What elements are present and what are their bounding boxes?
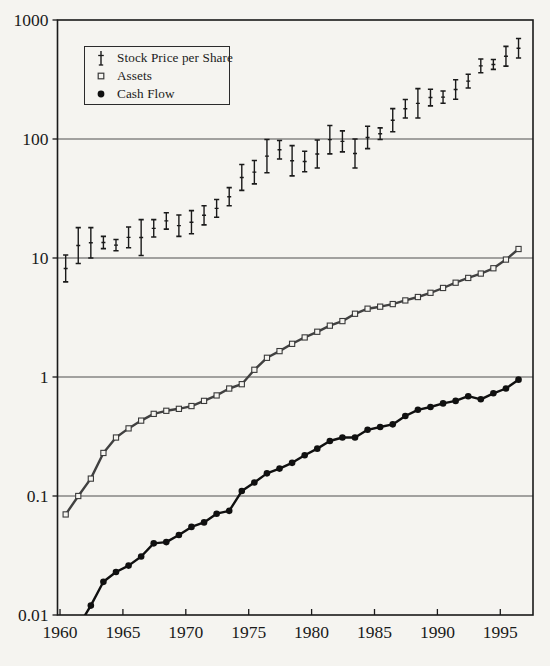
error-bar-icon [85,49,117,67]
data-point-1960 [63,512,68,517]
data-point-1972 [213,510,220,517]
data-point-1983 [352,311,357,316]
data-point-1967 [151,411,156,416]
data-point-1966 [139,418,144,423]
data-point-1986 [390,301,395,306]
y-axis-label-100: 100 [22,129,49,149]
legend-item-assets: Assets [85,67,229,85]
data-point-1980 [315,329,320,334]
data-point-1970 [188,524,195,531]
data-point-1982 [339,434,346,441]
data-point-1993 [477,396,484,403]
data-point-1992 [466,275,471,280]
data-point-1990 [440,285,445,290]
data-point-1976 [264,355,269,360]
legend: Stock Price per Share Assets Cash Flow [84,46,230,105]
data-point-1974 [239,382,244,387]
data-point-1968 [163,539,170,546]
data-point-1981 [327,323,332,328]
y-axis-label-1000: 1000 [14,10,49,30]
data-point-1993 [478,271,483,276]
data-point-1985 [378,304,383,309]
legend-label-cash-flow: Cash Flow [117,85,175,103]
data-point-1965 [126,426,131,431]
data-point-1996 [516,246,521,251]
data-point-1983 [352,434,359,441]
data-point-1989 [428,290,433,295]
x-axis-label-1995: 1995 [483,622,518,642]
data-point-1965 [125,562,132,569]
data-point-1974 [238,488,245,495]
y-axis-label-1: 1 [40,367,49,387]
data-point-1994 [491,266,496,271]
data-point-1969 [176,406,181,411]
data-point-1979 [301,452,308,459]
data-point-1976 [264,470,271,477]
data-point-1982 [340,318,345,323]
data-point-1989 [427,404,434,411]
data-point-1995 [503,385,510,392]
y-axis-label-0.1: 0.1 [27,486,49,506]
data-point-1967 [150,540,157,547]
x-axis-label-1965: 1965 [105,622,140,642]
data-point-1978 [289,460,296,467]
x-axis-label-1980: 1980 [294,622,329,642]
data-point-1961 [76,493,81,498]
data-point-1979 [302,335,307,340]
data-point-1972 [214,393,219,398]
x-axis-label-1970: 1970 [168,622,203,642]
data-point-1962 [88,602,95,609]
data-point-1987 [403,298,408,303]
data-point-1995 [503,257,508,262]
data-point-1994 [490,390,497,397]
data-point-1984 [364,427,371,434]
data-point-1988 [415,407,422,414]
data-point-1990 [440,400,447,407]
data-point-1984 [365,306,370,311]
data-point-1962 [88,476,93,481]
data-point-1966 [138,553,145,560]
x-axis-label-1990: 1990 [420,622,455,642]
data-point-1973 [227,386,232,391]
legend-label-stock-price: Stock Price per Share [117,49,233,67]
data-point-1986 [389,421,396,428]
chart-canvas: 0.010.1110100100019601965197019751980198… [0,0,550,666]
filled-circle-icon [85,85,117,103]
data-point-1963 [101,450,106,455]
data-point-1988 [415,294,420,299]
data-point-1978 [290,341,295,346]
x-axis-label-1960: 1960 [43,622,78,642]
data-point-1968 [164,408,169,413]
legend-item-stock-price: Stock Price per Share [85,49,229,67]
data-point-1971 [201,519,208,526]
data-point-1975 [251,479,258,486]
data-point-1977 [276,465,283,472]
open-square-icon [85,67,117,85]
data-point-1969 [176,532,183,539]
data-point-1977 [277,349,282,354]
data-point-1975 [252,367,257,372]
x-axis-label-1975: 1975 [231,622,266,642]
data-point-1980 [314,445,321,452]
data-point-1991 [452,398,459,405]
data-point-1964 [113,569,120,576]
semilog-financial-chart: 0.010.1110100100019601965197019751980198… [0,0,550,666]
legend-label-assets: Assets [117,67,152,85]
data-point-1992 [465,393,472,400]
data-point-1987 [402,413,409,420]
data-point-1964 [113,435,118,440]
figure-background [0,0,550,666]
data-point-1963 [100,579,107,586]
y-axis-label-10: 10 [31,248,49,268]
data-point-1981 [327,438,334,445]
data-point-1996 [515,376,522,383]
legend-item-cash-flow: Cash Flow [85,85,229,103]
data-point-1970 [189,403,194,408]
x-axis-label-1985: 1985 [357,622,392,642]
data-point-1991 [453,280,458,285]
data-point-1973 [226,508,233,515]
data-point-1985 [377,424,384,431]
data-point-1971 [201,398,206,403]
